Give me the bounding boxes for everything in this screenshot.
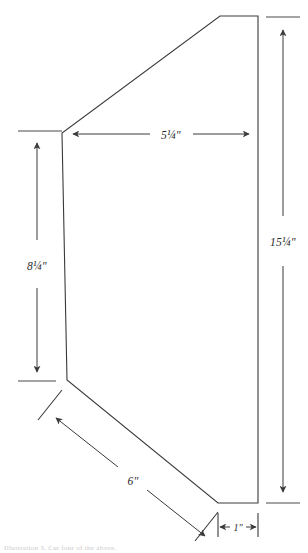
figure-caption: Illustration 3. Cut four of the above. (4, 544, 117, 552)
dimension-diagram-canvas: 8¼" 15¼" 5¼" 6" 1" (0, 0, 308, 553)
extension-tick-diagonal-end (195, 512, 218, 541)
extension-tick-diagonal-start (38, 390, 62, 420)
dim-label-right-height: 15¼" (270, 236, 296, 248)
diagram-root: 8¼" 15¼" 5¼" 6" 1" Illustration 3. Cut f… (0, 0, 308, 553)
pattern-shape-outline (62, 16, 258, 503)
dim-label-diagonal: 6" (128, 475, 139, 487)
dim-line-diagonal-lower (147, 490, 205, 536)
dim-label-top-width: 5¼" (161, 129, 181, 141)
dim-line-diagonal-upper (56, 418, 118, 467)
dim-label-left-height: 8¼" (27, 260, 47, 272)
dim-label-bevel-width: 1" (233, 522, 243, 533)
